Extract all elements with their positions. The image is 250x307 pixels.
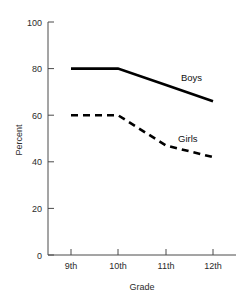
y-tick-label-20: 20 [32,204,42,214]
series-label-boys: Boys [181,72,202,83]
chart-canvas: 100 80 60 40 20 0 9th 10th 11th 12th Gra… [0,0,250,307]
y-tick-label-40: 40 [32,157,42,167]
x-tick-label-10th: 10th [109,261,127,271]
x-tick-marks [71,249,213,255]
x-axis-title: Grade [129,282,154,292]
y-tick-label-0: 0 [37,251,42,261]
axis-lines [48,22,236,255]
x-tick-label-9th: 9th [65,261,78,271]
y-tick-label-80: 80 [32,64,42,74]
y-tick-label-100: 100 [27,18,42,28]
line-chart: 100 80 60 40 20 0 9th 10th 11th 12th Gra… [0,0,250,307]
y-axis-title: Percent [14,124,24,156]
series-label-girls: Girls [178,133,198,144]
y-tick-marks [48,22,54,255]
x-tick-label-11th: 11th [158,261,175,271]
y-tick-label-60: 60 [32,111,42,121]
x-tick-label-12th: 12th [204,261,222,271]
